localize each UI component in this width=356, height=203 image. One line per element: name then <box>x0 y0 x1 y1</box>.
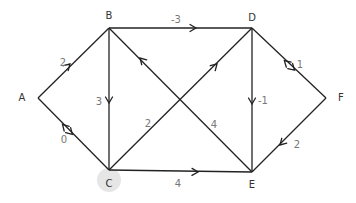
edge-weight-a-b: 2 <box>60 57 66 68</box>
edge-weight-a-c: 0 <box>61 134 67 145</box>
arrow-icon <box>210 64 217 71</box>
edge-weight-b-c: 3 <box>96 96 102 107</box>
edge-weight-d-e: -1 <box>258 95 268 106</box>
node-d: D <box>248 12 256 23</box>
edge-weight-d-f: 1 <box>297 59 303 70</box>
arrow-icon <box>140 58 147 65</box>
edge-a-b <box>38 28 109 98</box>
edge-weight-f-e: 2 <box>294 139 300 150</box>
edge-weight-e-b: 4 <box>211 119 217 130</box>
arrow-icon <box>280 138 287 145</box>
node-a: A <box>19 92 26 103</box>
node-b: B <box>106 10 113 21</box>
node-f: F <box>338 92 344 103</box>
edge-weight-c-e: 4 <box>175 178 181 189</box>
node-e: E <box>249 179 255 190</box>
edge-c-e <box>109 170 252 172</box>
graph-canvas: 203-3424-112 ABCDEF <box>0 0 356 203</box>
edge-a-c <box>38 98 109 170</box>
edge-f-e <box>252 98 326 172</box>
edge-d-f <box>252 28 326 98</box>
node-c: C <box>106 178 113 189</box>
edges-group <box>38 25 326 176</box>
edge-weight-c-d: 2 <box>145 118 151 129</box>
arrow-icon <box>192 168 198 175</box>
edge-weight-b-d: -3 <box>171 14 181 25</box>
